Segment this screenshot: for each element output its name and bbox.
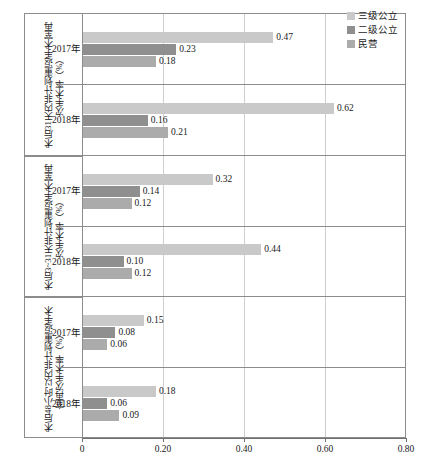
bar-value-label: 0.14: [143, 186, 160, 197]
legend-swatch-icon: [347, 26, 355, 34]
bar-value-label: 0.23: [179, 44, 196, 55]
bar[interactable]: [83, 244, 261, 255]
x-tick-label: 0.20: [155, 444, 172, 454]
bar-value-label: 0.16: [151, 115, 168, 126]
bar-value-label: 0.06: [110, 398, 127, 409]
bar[interactable]: [83, 268, 132, 279]
group-separator: [24, 155, 406, 156]
year-cell-2017年: 2017年: [58, 296, 82, 367]
bar[interactable]: [83, 398, 107, 409]
bar[interactable]: [83, 127, 168, 138]
group-separator: [24, 296, 406, 297]
x-tick: [244, 438, 245, 442]
legend-label: 二级公立: [358, 25, 398, 35]
bar-value-label: 0.12: [135, 268, 152, 279]
bar[interactable]: [83, 315, 144, 326]
bar[interactable]: [83, 410, 119, 421]
year-cell-2018年: 2018年: [58, 84, 82, 155]
bar[interactable]: [83, 386, 156, 397]
chart-legend: 三级公立二级公立民营: [347, 11, 398, 49]
bar-value-label: 0.12: [135, 198, 152, 209]
bar-value-label: 0.15: [147, 315, 164, 326]
bar-value-label: 0.10: [127, 256, 144, 267]
bar-value-label: 0.06: [110, 339, 127, 350]
x-tick: [325, 438, 326, 442]
legend-item-3[interactable]: 民营: [347, 39, 398, 49]
year-label: 2018年: [52, 254, 81, 268]
bar[interactable]: [83, 339, 107, 350]
year-cell-2017年: 2017年: [58, 13, 82, 84]
bar[interactable]: [83, 327, 115, 338]
year-cell-2018年: 2018年: [58, 367, 82, 438]
year-label: 2017年: [52, 41, 81, 55]
x-tick-label: 0: [80, 444, 85, 454]
x-tick-label: 0.60: [317, 444, 334, 454]
x-tick: [163, 438, 164, 442]
bar-value-label: 0.21: [171, 127, 188, 138]
bar[interactable]: [83, 198, 132, 209]
year-separator: [58, 367, 406, 368]
year-label: 2018年: [52, 396, 81, 410]
year-label: 2018年: [52, 112, 81, 126]
bar[interactable]: [83, 115, 148, 126]
x-tick-label: 0.40: [236, 444, 253, 454]
bar-chart: 三级公立二级公立民营 术后31天内非计划重返手术室再次手术率（%）术后3~31天…: [0, 0, 442, 463]
bar[interactable]: [83, 174, 213, 185]
bar[interactable]: [83, 44, 176, 55]
bar-value-label: 0.32: [216, 174, 233, 185]
bar-value-label: 0.18: [159, 56, 176, 67]
bar[interactable]: [83, 103, 334, 114]
year-separator: [58, 226, 406, 227]
bar[interactable]: [83, 186, 140, 197]
bar[interactable]: [83, 56, 156, 67]
bar-value-label: 0.62: [337, 103, 354, 114]
bar-value-label: 0.09: [122, 410, 139, 421]
bar[interactable]: [83, 32, 273, 43]
legend-item-2[interactable]: 二级公立: [347, 25, 398, 35]
legend-swatch-icon: [347, 40, 355, 48]
x-tick-label: 0.80: [398, 444, 415, 454]
bar[interactable]: [83, 256, 124, 267]
year-label: 2017年: [52, 325, 81, 339]
legend-item-1[interactable]: 三级公立: [347, 11, 398, 21]
year-label: 2017年: [52, 183, 81, 197]
year-cell-2018年: 2018年: [58, 226, 82, 297]
legend-label: 三级公立: [358, 11, 398, 21]
legend-label: 民营: [358, 39, 378, 49]
x-tick: [406, 438, 407, 442]
year-cell-2017年: 2017年: [58, 155, 82, 226]
legend-swatch-icon: [347, 12, 355, 20]
year-separator: [58, 84, 406, 85]
x-tick: [82, 438, 83, 442]
bar-value-label: 0.18: [159, 386, 176, 397]
bar-value-label: 0.44: [264, 244, 281, 255]
bar-value-label: 0.47: [276, 32, 293, 43]
bar-value-label: 0.08: [118, 327, 135, 338]
